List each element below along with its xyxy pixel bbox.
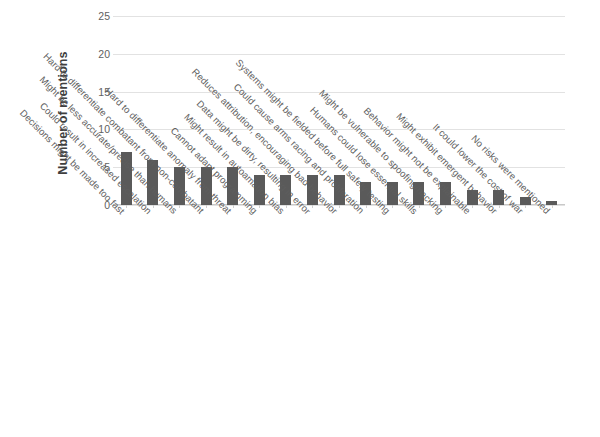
y-axis-tick-25: 25 (86, 11, 110, 22)
y-axis-tick-20: 20 (86, 49, 110, 60)
bar-slot (539, 16, 566, 205)
bar-chart: Number of mentions 0510152025 Decisions … (0, 0, 600, 437)
x-axis-category-labels: Decisions might be made too fastCould re… (113, 209, 565, 434)
